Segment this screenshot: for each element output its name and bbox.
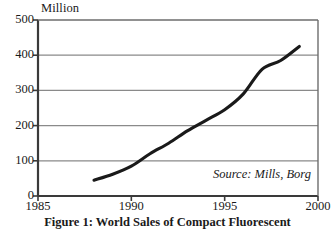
y-tick-label-300: 300 [2,82,34,97]
y-tick-label-400: 400 [2,47,34,62]
figure-caption: Figure 1: World Sales of Compact Fluores… [0,215,335,230]
y-tick-label-500: 500 [2,12,34,27]
x-tick-label-2000: 2000 [306,199,331,214]
y-tick-label-100: 100 [2,153,34,168]
gridlines [38,55,318,161]
y-axis-unit-label: Million [41,1,79,16]
data-series-line [94,46,299,180]
x-tick-label-1985: 1985 [26,199,51,214]
y-tick-label-200: 200 [2,118,34,133]
x-tick-label-1995: 1995 [212,199,237,214]
figure-container: Million 0100200300400500 198519901995200… [0,0,335,234]
source-annotation: Source: Mills, Borg [213,167,311,182]
x-tick-label-1990: 1990 [119,199,144,214]
